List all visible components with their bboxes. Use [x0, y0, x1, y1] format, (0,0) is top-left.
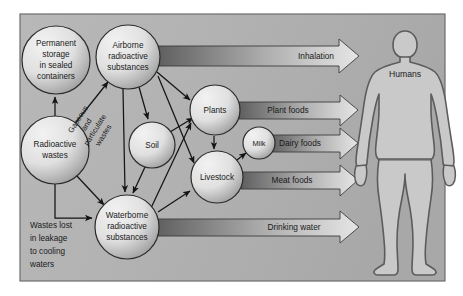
permanent-storage-label-2: storage	[42, 50, 70, 59]
milk-label: Milk	[252, 139, 265, 148]
airborne-label-2: radioactive	[108, 52, 148, 61]
plant-foods-label: Plant foods	[267, 105, 309, 115]
node-plants[interactable]: Plants	[190, 85, 240, 135]
soil-label: Soil	[145, 141, 159, 150]
radioactive-wastes-label-2: wastes	[41, 151, 67, 160]
node-soil[interactable]: Soil	[129, 122, 175, 168]
permanent-storage-circle[interactable]	[22, 26, 90, 94]
waterborne-label-3: substances	[106, 233, 147, 242]
radioactive-pathways-diagram: Inhalation Plant foods Dairy foods Meat …	[0, 0, 463, 296]
livestock-label: Livestock	[200, 173, 235, 182]
human-hand-left	[355, 165, 367, 186]
radioactive-wastes-label-1: Radioactive	[34, 140, 77, 149]
plants-label: Plants	[204, 106, 227, 115]
wastes-lost-line-4: waters	[29, 260, 54, 269]
node-livestock[interactable]: Livestock	[191, 151, 243, 203]
waterborne-label-1: Waterborne	[106, 211, 149, 220]
dairy-foods-label: Dairy foods	[279, 138, 321, 148]
human-hand-right	[443, 165, 455, 186]
wastes-lost-line-1: Wastes lost	[30, 221, 73, 230]
node-waterborne[interactable]: Waterborne radioactive substances	[95, 195, 159, 259]
airborne-label-1: Airborne	[113, 41, 144, 50]
diagram-canvas: Inhalation Plant foods Dairy foods Meat …	[0, 0, 463, 296]
airborne-label-3: substances	[107, 63, 148, 72]
human-head	[393, 31, 417, 58]
waterborne-label-2: radioactive	[107, 222, 147, 231]
meat-foods-label: Meat foods	[271, 175, 312, 185]
wastes-lost-line-3: to cooling	[30, 247, 65, 256]
inhalation-label: Inhalation	[298, 51, 334, 61]
permanent-storage-label-1: Permanent	[36, 39, 77, 48]
node-airborne[interactable]: Airborne radioactive substances	[96, 25, 160, 89]
wastes-lost-line-2: in leakage	[30, 234, 68, 243]
humans-label: Humans	[389, 69, 421, 79]
permanent-storage-label-4: containers	[37, 72, 75, 81]
permanent-storage-label-3: in sealed	[40, 61, 73, 70]
node-permanent-storage[interactable]: Permanent storage in sealed containers	[22, 26, 90, 94]
drinking-water-label: Drinking water	[267, 222, 320, 232]
node-milk[interactable]: Milk	[243, 127, 275, 159]
